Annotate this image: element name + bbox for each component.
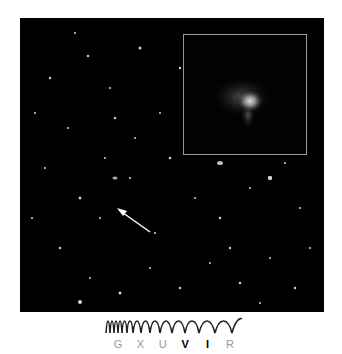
band-x: X	[132, 338, 148, 350]
galaxy	[217, 161, 223, 165]
band-i: I	[200, 338, 216, 350]
band-v: V	[177, 338, 193, 350]
wavelength-band-labels: G X U V I R	[104, 338, 244, 350]
inset-zoom-panel	[183, 34, 307, 155]
band-r: R	[222, 338, 238, 350]
band-u: U	[155, 338, 171, 350]
band-g: G	[110, 338, 126, 350]
wavelength-wave-icon	[104, 315, 244, 337]
zoomed-galaxy	[184, 35, 307, 155]
galaxy	[113, 177, 118, 180]
